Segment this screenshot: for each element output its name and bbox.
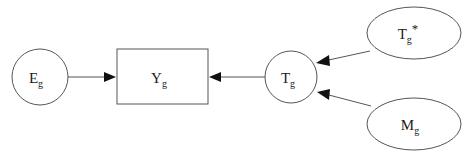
node-yg-label-subscript: g [162, 78, 167, 89]
edge-tgstar-to-tg-arrowhead [316, 55, 330, 66]
path-diagram-canvas: Eg Yg Tg Tg* Mg [0, 0, 467, 155]
edge-eg-to-yg-arrowhead [104, 72, 116, 82]
node-yg-shape[interactable] [117, 49, 208, 104]
node-eg-label-subscript: g [38, 78, 43, 89]
edge-tg-to-yg-arrowhead [209, 72, 221, 82]
node-eg[interactable]: Eg [12, 49, 68, 105]
edge-mg-to-tg [317, 89, 371, 106]
edge-tgstar-to-tg [316, 51, 370, 66]
node-eg-shape[interactable] [12, 49, 68, 105]
edge-mg-to-tg-line [325, 94, 371, 106]
node-tg-shape[interactable] [265, 51, 317, 103]
node-tgstar-label-base: T [398, 26, 407, 42]
path-diagram-svg: Eg Yg Tg Tg* Mg [0, 0, 467, 155]
node-tg-label-subscript: g [290, 78, 295, 89]
node-tgstar-label-superscript: * [412, 21, 419, 36]
edge-tgstar-to-tg-line [324, 51, 370, 61]
node-tg-label-base: T [281, 70, 290, 86]
node-yg-label-base: Y [151, 70, 162, 86]
node-eg-label-base: E [29, 70, 38, 86]
node-mg-label-base: M [401, 117, 414, 133]
edge-mg-to-tg-arrowhead [317, 89, 330, 100]
node-tgstar[interactable]: Tg* [367, 7, 461, 59]
node-mg-label-subscript: g [414, 125, 419, 136]
node-mg[interactable]: Mg [367, 98, 461, 150]
edge-eg-to-yg [68, 72, 116, 82]
node-yg[interactable]: Yg [117, 49, 208, 104]
node-tg[interactable]: Tg [265, 51, 317, 103]
edge-tg-to-yg [209, 72, 265, 82]
